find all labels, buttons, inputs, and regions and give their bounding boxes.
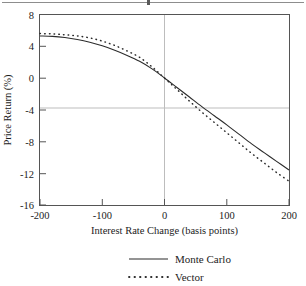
x-tick-label: 0	[162, 210, 167, 221]
y-axis-ticks	[40, 15, 46, 206]
x-tick-label: -200	[30, 210, 49, 221]
legend-label-vector: Vector	[175, 271, 204, 283]
x-tick-label: 100	[219, 210, 235, 221]
y-tick-label: 4	[29, 41, 35, 52]
figure-container: 8 4 0 -4 -8 -12 -16 -200 -100 0 100 200 …	[0, 0, 306, 286]
y-tick-label: -12	[20, 169, 34, 180]
y-tick-labels: 8 4 0 -4 -8 -12 -16	[20, 10, 35, 212]
x-tick-label: -100	[93, 210, 112, 221]
line-chart: 8 4 0 -4 -8 -12 -16 -200 -100 0 100 200 …	[0, 0, 306, 286]
y-tick-label: 8	[29, 10, 34, 21]
x-tick-labels: -200 -100 0 100 200	[30, 210, 297, 221]
y-tick-label: -8	[25, 137, 34, 148]
x-tick-label: 200	[281, 210, 297, 221]
legend: Monte Carlo Vector	[129, 253, 231, 283]
x-axis-title: Interest Rate Change (basis points)	[91, 225, 238, 237]
legend-label-monte-carlo: Monte Carlo	[175, 253, 231, 265]
y-tick-label: 0	[29, 73, 34, 84]
x-axis-ticks	[40, 199, 289, 205]
y-axis-title: Price Return (%)	[2, 74, 14, 146]
y-tick-label: -4	[25, 105, 34, 116]
